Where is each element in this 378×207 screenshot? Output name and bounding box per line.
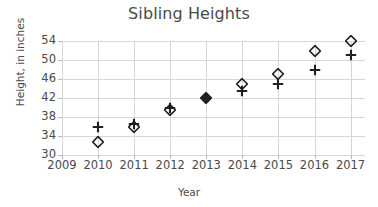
gridline-horizontal (62, 60, 365, 61)
x-axis-label: Year (0, 186, 378, 198)
gridline-horizontal (62, 79, 365, 80)
x-tick-label: 2017 (331, 160, 371, 172)
y-tick-label: 50 (22, 54, 56, 66)
y-tick-label: 54 (22, 35, 56, 47)
y-tick-mark (58, 60, 62, 61)
gridline-vertical (62, 41, 63, 155)
y-tick-mark (58, 117, 62, 118)
chart-title: Sibling Heights (0, 4, 378, 23)
y-tick-mark (58, 41, 62, 42)
x-tick-label: 2010 (78, 160, 118, 172)
x-tick-label: 2012 (150, 160, 190, 172)
y-tick-label: 34 (22, 130, 56, 142)
gridline-horizontal (62, 98, 365, 99)
gridline-vertical (170, 41, 171, 155)
y-tick-label: 38 (22, 111, 56, 123)
y-tick-label: 46 (22, 73, 56, 85)
x-tick-label: 2009 (42, 160, 82, 172)
gridline-horizontal (62, 136, 365, 137)
x-tick-label: 2016 (295, 160, 335, 172)
gridline-horizontal (62, 117, 365, 118)
scatter-chart: Sibling Heights Height, in inches 303438… (0, 0, 378, 207)
y-tick-mark (58, 136, 62, 137)
gridline-vertical (242, 41, 243, 155)
y-tick-mark (58, 79, 62, 80)
gridline-horizontal (62, 41, 365, 42)
x-tick-label: 2011 (114, 160, 154, 172)
x-tick-label: 2014 (222, 160, 262, 172)
x-tick-label: 2015 (258, 160, 298, 172)
gridline-vertical (278, 41, 279, 155)
gridline-vertical (134, 41, 135, 155)
gridline-horizontal (62, 155, 365, 156)
plot-area: 30343842465054 2009201020112012201320142… (62, 41, 365, 155)
gridline-vertical (315, 41, 316, 155)
y-tick-mark (58, 98, 62, 99)
y-tick-label: 42 (22, 92, 56, 104)
x-tick-label: 2013 (186, 160, 226, 172)
